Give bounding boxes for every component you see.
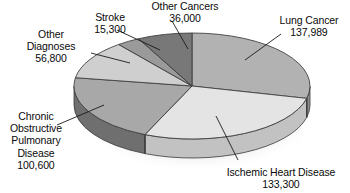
- slice-label-other-cancers: Other Cancers 36,000: [140, 0, 230, 24]
- slice-label-other-diagnoses-line2: Diagnoses: [13, 40, 89, 52]
- slice-label-lung-cancer-name: Lung Cancer: [269, 14, 349, 26]
- slice-label-lung-cancer-value: 137,989: [269, 26, 349, 38]
- slice-label-copd-line2: Obstructive: [0, 122, 72, 134]
- slice-label-stroke-name: Stroke: [76, 11, 144, 23]
- slice-label-copd: Chronic Obstructive Pulmonary Disease 10…: [0, 110, 72, 171]
- pie-chart: Other Cancers 36,000 Stroke 15,300 Other…: [0, 0, 350, 193]
- slice-label-other-cancers-name: Other Cancers: [140, 0, 230, 12]
- slice-label-lung-cancer: Lung Cancer 137,989: [269, 14, 349, 38]
- slice-label-other-diagnoses-value: 56,800: [13, 52, 89, 64]
- pie-top-face: [74, 33, 310, 139]
- slice-label-ischemic-heart-disease: Ischemic Heart Disease 133,300: [218, 166, 344, 190]
- slice-label-copd-line1: Chronic: [0, 110, 72, 122]
- slice-label-ischemic-value: 133,300: [218, 178, 344, 190]
- slice-label-other-cancers-value: 36,000: [140, 12, 230, 24]
- slice-label-other-diagnoses: Other Diagnoses 56,800: [13, 28, 89, 65]
- slice-label-copd-line4: Disease: [0, 147, 72, 159]
- slice-label-ischemic-name: Ischemic Heart Disease: [218, 166, 344, 178]
- slice-label-copd-line3: Pulmonary: [0, 134, 72, 146]
- slice-label-other-diagnoses-line1: Other: [13, 28, 89, 40]
- slice-label-copd-value: 100,600: [0, 159, 72, 171]
